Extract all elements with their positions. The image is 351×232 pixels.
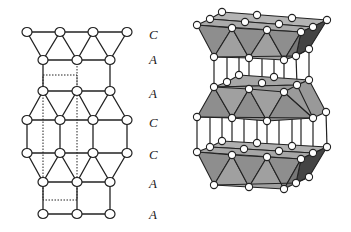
structure-diagram [0,0,351,232]
right-3d-view [193,8,330,192]
layer-label-c-1: C [149,27,158,43]
layer-label-a-2: A [149,86,157,102]
layer-label-c-2: C [149,115,158,131]
layer-label-a-3: A [149,176,157,192]
crystal-structure-figure: C A A C C A A [0,0,351,232]
layer-label-a-4: A [149,207,157,223]
layer-label-c-3: C [149,147,158,163]
left-projection [22,28,132,219]
layer-label-a-1: A [149,52,157,68]
